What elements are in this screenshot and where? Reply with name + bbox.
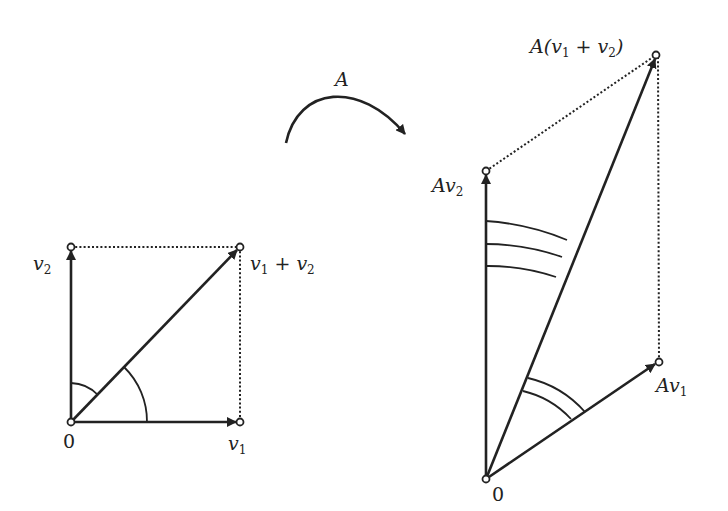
origin-point-right [483,476,490,483]
angle-arc-upper-2 [486,244,562,257]
sum-label: v1 + v2 [250,252,315,277]
av2-point [483,168,490,175]
vector-v1-plus-v2 [71,250,237,422]
angle-arc-upper-1 [486,221,567,240]
origin-point [68,419,75,426]
angle-arc-v2-sum [71,383,98,395]
vector-a-sum [486,59,655,479]
linear-map-diagram: 0 v1 v2 v1 + v2 A 0 Av1 Av2 A(v1 + v2) [0,0,728,511]
origin-label-right: 0 [492,483,504,505]
right-diagram: 0 Av1 Av2 A(v1 + v2) [430,35,687,505]
av2-label: Av2 [430,174,463,199]
v2-point [68,244,75,251]
av1-point [656,359,663,366]
av1-label: Av1 [654,374,687,399]
vector-av1 [486,364,655,479]
origin-label-left: 0 [63,430,75,452]
map-label: A [333,68,349,90]
v1-label: v1 [228,432,246,457]
angle-arc-upper-3 [486,266,556,277]
v1-point [237,419,244,426]
left-diagram: 0 v1 v2 v1 + v2 [33,244,315,458]
angle-arc-lower-2 [523,391,571,419]
v2-label: v2 [33,252,51,277]
map-arrow: A [286,68,405,143]
dotted-top-edge-right [486,55,656,171]
a-sum-label: A(v1 + v2) [528,35,623,60]
a-sum-point [653,52,660,59]
angle-arc-sum-v1 [124,367,147,422]
dotted-right-edge-right [658,57,659,362]
curved-arrow-icon [286,97,405,143]
sum-point [237,244,244,251]
